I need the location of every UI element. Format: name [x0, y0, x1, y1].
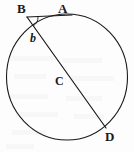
point-label-c: C [55, 75, 64, 87]
angle-label-b: b [30, 32, 36, 44]
point-label-b: B [17, 2, 26, 15]
point-label-d: D [105, 130, 114, 143]
circle-outline [7, 14, 128, 140]
point-label-a: A [58, 2, 67, 15]
chord-b-to-d [27, 17, 106, 128]
geometry-figure-container: B A b C D [0, 0, 134, 152]
